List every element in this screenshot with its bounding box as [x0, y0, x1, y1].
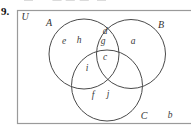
circle-a: [49, 19, 119, 89]
venn-diagram-exercise: ·—· ·· — —·— ·— 9. U A B C e h d g a c i…: [0, 0, 191, 128]
region-label-e: e: [62, 37, 66, 47]
region-label-j: j: [107, 90, 110, 100]
region-label-b: b: [168, 111, 173, 121]
region-label-f: f: [92, 91, 95, 101]
region-label-c: c: [103, 53, 107, 63]
region-label-a: a: [131, 37, 136, 47]
universal-set-label: U: [21, 12, 28, 22]
set-a-label: A: [46, 18, 52, 28]
set-b-label: B: [158, 20, 164, 30]
set-c-label: C: [141, 111, 148, 121]
region-label-i: i: [86, 64, 89, 74]
region-label-g: g: [101, 37, 106, 47]
region-label-h: h: [77, 36, 82, 46]
